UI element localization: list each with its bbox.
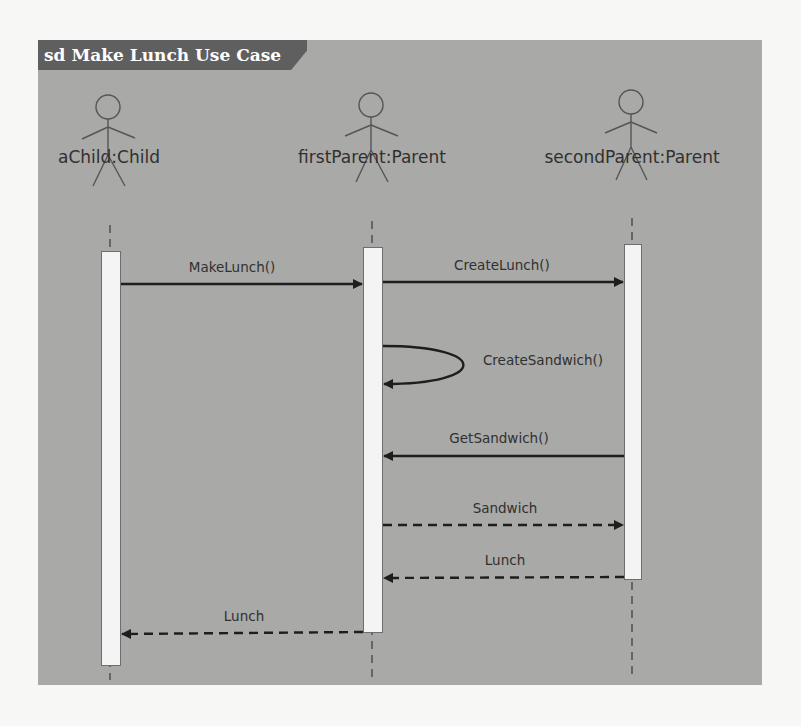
message-label-getsandwich: GetSandwich(): [449, 430, 548, 446]
lifeline-label-secondparent: secondParent:Parent: [544, 147, 719, 167]
message-label-lunch-return-1: Lunch: [485, 552, 525, 568]
message-label-sandwich: Sandwich: [473, 500, 538, 516]
lifeline-label-achild: aChild:Child: [58, 147, 160, 167]
message-label-lunch-return-2: Lunch: [224, 608, 264, 624]
message-label-createsandwich: CreateSandwich(): [483, 352, 603, 368]
return-arrow-lunch-to-achild: [122, 632, 363, 634]
message-label-makelunch: MakeLunch(): [189, 259, 275, 275]
lifeline-label-firstparent: firstParent:Parent: [298, 147, 446, 167]
message-arrow-createsandwich: [383, 346, 463, 384]
message-label-createlunch: CreateLunch(): [454, 257, 550, 273]
message-arrows: [0, 0, 801, 726]
return-arrow-lunch-to-firstparent: [384, 577, 624, 578]
